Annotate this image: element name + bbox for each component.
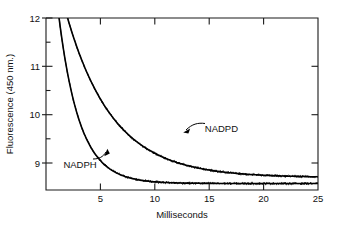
x-tick-label-10: 10 (150, 193, 161, 204)
y-axis-label: Fluorescence (450 nm.) (4, 54, 15, 154)
y-tick-label-10: 10 (29, 109, 40, 120)
x-tick-label-20: 20 (258, 193, 269, 204)
series-label-nadph: NADPH (63, 159, 96, 170)
chart-svg: Fluorescence (450 nm.) 12 11 10 9 5 10 1… (0, 0, 342, 229)
x-tick-label-15: 15 (204, 193, 215, 204)
y-tick-label-11: 11 (30, 61, 40, 72)
x-tick-label-5: 5 (98, 193, 103, 204)
x-tick-label-25: 25 (313, 193, 324, 204)
fluorescence-decay-chart: Fluorescence (450 nm.) 12 11 10 9 5 10 1… (0, 0, 342, 229)
y-tick-label-12: 12 (29, 13, 40, 24)
x-axis-label: Milliseconds (156, 209, 208, 220)
series-label-nadpd: NADPD (205, 123, 238, 134)
y-tick-label-9: 9 (35, 158, 40, 169)
